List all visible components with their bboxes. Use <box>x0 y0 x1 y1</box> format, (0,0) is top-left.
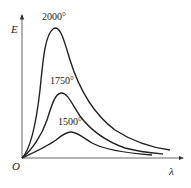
curve-1500 <box>22 132 152 158</box>
origin-label: O <box>12 161 20 172</box>
chart-plot-area <box>0 0 191 188</box>
y-axis-label: E <box>11 24 18 35</box>
x-axis-label: λ <box>169 166 174 177</box>
curve-1500-label: 1500° <box>58 117 82 127</box>
curve-2000 <box>22 28 170 158</box>
blackbody-radiation-chart: E λ O 2000° 1750° 1500° <box>0 0 191 188</box>
curve-2000-label: 2000° <box>42 12 66 22</box>
curve-1750-label: 1750° <box>50 76 74 86</box>
